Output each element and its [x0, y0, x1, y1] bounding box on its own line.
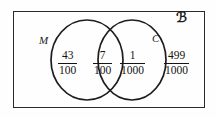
region-value-outside: 499 1000	[164, 50, 189, 76]
fraction-numerator: 1	[120, 50, 145, 62]
fraction-numerator: 43	[58, 50, 77, 62]
fraction-denominator: 1000	[120, 64, 145, 76]
venn-diagram: ℬ M C 43 100 7 100 1 1000 499 1000	[0, 0, 216, 118]
fraction-numerator: 499	[164, 50, 189, 62]
set-label-m: M	[39, 35, 48, 46]
fraction-denominator: 100	[58, 64, 77, 76]
region-value-m-only: 43 100	[58, 50, 77, 76]
fraction-denominator: 100	[93, 64, 112, 76]
universal-set-label: ℬ	[176, 10, 187, 24]
fraction-numerator: 7	[93, 50, 112, 62]
set-label-c: C	[152, 33, 159, 44]
region-value-c-only: 1 1000	[120, 50, 145, 76]
region-value-intersection: 7 100	[93, 50, 112, 76]
fraction-denominator: 1000	[164, 64, 189, 76]
